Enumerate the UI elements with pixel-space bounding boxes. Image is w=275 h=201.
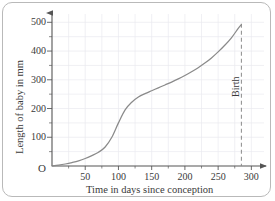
x-tick-100: 100 — [109, 172, 127, 182]
x-tick-250: 250 — [209, 172, 227, 182]
y-tick-400: 400 — [22, 46, 46, 56]
axis-minor-ticks — [49, 37, 235, 169]
y-tick-300: 300 — [22, 75, 46, 85]
y-tick-500: 500 — [22, 17, 46, 27]
x-tick-150: 150 — [143, 172, 161, 182]
x-tick-50: 50 — [76, 172, 94, 182]
y-tick-100: 100 — [22, 132, 46, 142]
growth-curve — [52, 25, 241, 166]
x-tick-200: 200 — [176, 172, 194, 182]
x-tick-300: 300 — [242, 172, 260, 182]
birth-marker-label: Birth — [230, 76, 241, 97]
origin-label: O — [38, 162, 46, 174]
growth-chart: O Length of baby in mm Time in days sinc… — [0, 0, 275, 201]
y-tick-200: 200 — [22, 104, 46, 114]
x-axis-title: Time in days since conception — [86, 184, 213, 195]
axis-major-ticks — [47, 22, 251, 170]
